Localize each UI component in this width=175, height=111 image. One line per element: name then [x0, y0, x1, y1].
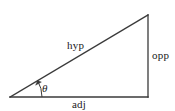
- opposite-label: opp: [152, 50, 169, 61]
- triangle-drawing: [0, 0, 175, 111]
- theta-angle-label: θ: [42, 83, 48, 94]
- adjacent-label: adj: [72, 99, 86, 110]
- hypotenuse-label: hyp: [67, 40, 84, 51]
- trigonometry-triangle-figure: hyp opp adj θ: [0, 0, 175, 111]
- hypotenuse-line: [10, 15, 148, 97]
